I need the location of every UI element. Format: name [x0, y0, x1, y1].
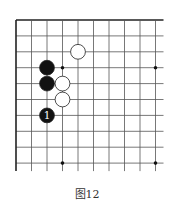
black-stone: 1	[40, 108, 55, 123]
star-point-icon	[61, 66, 65, 70]
black-stone	[40, 60, 55, 75]
white-stone	[55, 76, 70, 91]
black-stone	[40, 76, 55, 91]
white-stone	[55, 92, 70, 107]
move-number-label: 1	[44, 109, 51, 121]
star-point-icon	[61, 161, 65, 165]
star-point-icon	[154, 161, 158, 165]
star-point-icon	[154, 66, 158, 70]
figure-caption: 图12	[0, 185, 174, 201]
white-stone	[71, 44, 86, 59]
go-board-diagram: 1	[0, 0, 174, 180]
board-grid	[16, 20, 164, 171]
